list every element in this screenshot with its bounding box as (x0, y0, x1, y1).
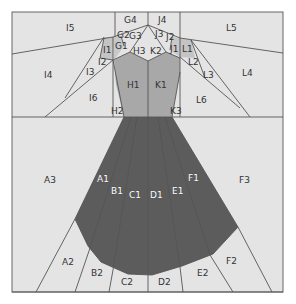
label-j2: J2 (165, 32, 174, 42)
label-j3: J3 (154, 29, 163, 39)
label-l1: L1 (182, 44, 193, 54)
label-h3: H3 (133, 46, 146, 56)
label-f2: F2 (226, 256, 237, 266)
pattern-diagram: G4 J4 G2 G3 J3 J2 G1 H3 K2 J1 I5 L5 I1 L… (0, 0, 296, 304)
label-e1: E1 (172, 186, 183, 196)
label-k1: K1 (155, 80, 167, 90)
label-c2: C2 (121, 277, 133, 287)
label-a3: A3 (44, 175, 56, 185)
label-e2: E2 (197, 268, 208, 278)
label-i3: I3 (86, 67, 94, 77)
label-a2: A2 (62, 257, 74, 267)
label-i6: I6 (89, 93, 98, 103)
label-h1: H1 (127, 80, 140, 90)
label-l5: L5 (226, 23, 237, 33)
label-i5: I5 (66, 23, 74, 33)
label-b1: B1 (111, 186, 123, 196)
label-h2: H2 (111, 106, 124, 116)
label-g4: G4 (124, 15, 137, 25)
label-l6: L6 (196, 95, 207, 105)
label-l3: L3 (203, 70, 214, 80)
label-g3: G3 (129, 31, 142, 41)
label-i4: I4 (44, 70, 53, 80)
label-a1: A1 (97, 174, 109, 184)
label-k2: K2 (150, 46, 162, 56)
label-f1: F1 (188, 173, 199, 183)
label-d2: D2 (158, 277, 171, 287)
label-g1: G1 (115, 41, 128, 51)
label-f3: F3 (239, 175, 250, 185)
label-d1: D1 (150, 190, 163, 200)
label-j4: J4 (157, 15, 167, 25)
label-g2: G2 (117, 30, 130, 40)
label-l4: L4 (242, 68, 253, 78)
label-j1: J1 (169, 44, 178, 54)
label-c1: C1 (129, 190, 141, 200)
label-i2: I2 (98, 57, 106, 67)
label-i1: I1 (103, 45, 111, 55)
label-b2: B2 (91, 268, 103, 278)
label-l2: L2 (188, 57, 199, 67)
label-k3: K3 (170, 106, 182, 116)
